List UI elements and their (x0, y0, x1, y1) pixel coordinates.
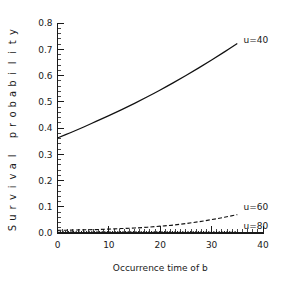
chart-canvas: Survivalprobability 0.00.10.20.30.40.50.… (0, 0, 291, 284)
y-axis-title-letter: a (7, 91, 18, 97)
series-line-u-40 (58, 43, 238, 138)
y-axis-title-letter: u (7, 215, 18, 221)
y-tick-label: 0.4 (38, 123, 53, 133)
y-axis-title-letter: i (7, 51, 18, 54)
y-axis-title-letter: S (7, 225, 18, 231)
series-label-u-40: u=40 (243, 35, 268, 45)
x-tick-label: 30 (206, 240, 218, 250)
y-axis-title-letter: o (7, 111, 18, 117)
survival-probability-chart: Survivalprobability 0.00.10.20.30.40.50.… (0, 0, 291, 284)
x-tick-label: 20 (155, 240, 167, 250)
y-tick-label: 0.3 (38, 150, 52, 160)
x-axis-title-group: Occurrence time of b (113, 263, 208, 273)
y-tick-label: 0.5 (38, 97, 52, 107)
y-tick-label: 0.8 (38, 18, 53, 28)
x-axis-title: Occurrence time of b (113, 263, 208, 273)
y-axis-title-letter: r (7, 204, 18, 209)
y-axis-title-letter: b (7, 101, 18, 107)
y-axis-title-letter: i (7, 72, 18, 75)
y-tick-label: 0.0 (38, 228, 53, 238)
y-axis-title-letter: r (7, 122, 18, 127)
y-tick-label: 0.2 (38, 176, 52, 186)
series-group (58, 43, 238, 231)
y-axis-title-letter: t (7, 40, 18, 44)
y-axis-title-letter: b (7, 80, 18, 86)
y-axis-title-letter: v (7, 173, 18, 179)
y-axis-title-letter: a (7, 163, 18, 169)
y-tick-label: 0.1 (38, 202, 52, 212)
y-tick-label: 0.6 (38, 71, 53, 81)
x-tick-label: 40 (257, 240, 269, 250)
y-axis-title-letter: p (7, 132, 18, 138)
series-line-u-60 (58, 215, 238, 231)
x-axis-group: 010203040 (55, 226, 269, 250)
y-axis-title-letter: v (7, 194, 18, 200)
y-axis-title-letter: l (7, 62, 18, 65)
series-label-u-60: u=60 (243, 202, 268, 212)
y-axis-title-group: Survivalprobability (7, 29, 18, 231)
series-label-u-80: u=80 (243, 221, 268, 231)
x-tick-label: 10 (103, 240, 115, 250)
y-axis-title-letter: l (7, 154, 18, 157)
annotations-group: u=40u=60u=80 (243, 35, 268, 231)
y-axis-title-letter: y (7, 29, 18, 35)
y-tick-label: 0.7 (38, 45, 52, 55)
y-axis-group: 0.00.10.20.30.40.50.60.70.8 (38, 18, 63, 238)
x-tick-label: 0 (55, 240, 61, 250)
y-axis-title-letter: i (7, 185, 18, 188)
